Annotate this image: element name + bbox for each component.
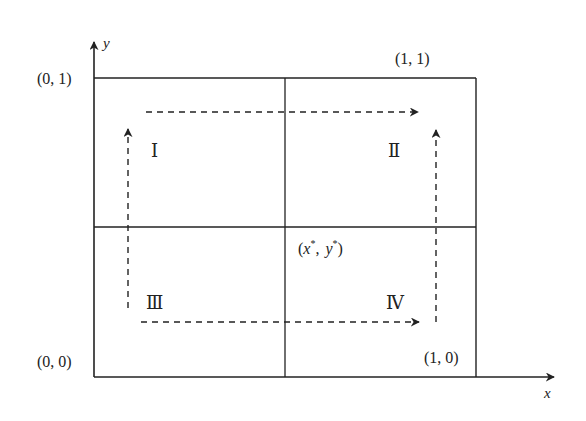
corner-label-top-left: (0, 1) — [37, 70, 72, 88]
corner-label-bottom-right: (1, 0) — [424, 349, 459, 367]
quadrant-label-3: Ⅲ — [146, 293, 163, 313]
x-axis-label: x — [543, 385, 551, 401]
quadrant-label-4: Ⅳ — [386, 293, 405, 313]
quadrant-label-2: Ⅱ — [388, 141, 400, 161]
equilibrium-point-label: (x*,y*) — [298, 238, 343, 258]
phase-diagram: y x (0, 1) (1, 1) (0, 0) (1, 0) (x*,y*) … — [0, 0, 586, 421]
corner-label-top-right: (1, 1) — [395, 50, 430, 68]
quadrant-label-1: Ⅰ — [151, 141, 158, 161]
y-axis-label: y — [101, 35, 110, 51]
corner-label-origin: (0, 0) — [37, 353, 72, 371]
